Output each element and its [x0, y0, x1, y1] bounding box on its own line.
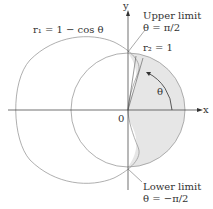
label-upper-theta: θ = π/2 [143, 22, 180, 33]
diagram-svg [0, 0, 213, 209]
lower-leader [128, 169, 142, 182]
label-y: y [123, 0, 129, 11]
label-x: x [203, 104, 209, 115]
label-lower-theta: θ = −π/2 [143, 193, 188, 204]
label-lower-limit: Lower limit [143, 181, 201, 192]
label-origin: 0 [118, 113, 124, 124]
label-r2: r₂ = 1 [143, 42, 173, 53]
polar-diagram: r₁ = 1 − cos θ Upper limit θ = π/2 r₂ = … [0, 0, 213, 209]
label-theta: θ [157, 86, 163, 97]
label-r1: r₁ = 1 − cos θ [33, 24, 104, 35]
label-upper-limit: Upper limit [143, 10, 201, 21]
